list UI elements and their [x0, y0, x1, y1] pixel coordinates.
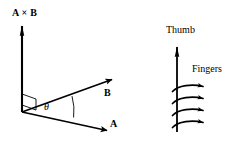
vector-b-arrow [22, 80, 112, 113]
label-vector-a: A [110, 119, 117, 129]
label-thumb: Thumb [166, 25, 195, 35]
label-angle-theta: θ [44, 102, 49, 112]
angle-arc [72, 96, 74, 117]
figure-root: A × B B A θ Thumb Fingers [0, 0, 244, 146]
label-fingers: Fingers [192, 64, 222, 74]
cross-product-diagram [22, 26, 112, 131]
hand-diagram [173, 47, 204, 132]
label-cross-product: A × B [12, 8, 37, 18]
label-vector-b: B [104, 88, 111, 98]
vector-a-arrow [22, 112, 107, 131]
